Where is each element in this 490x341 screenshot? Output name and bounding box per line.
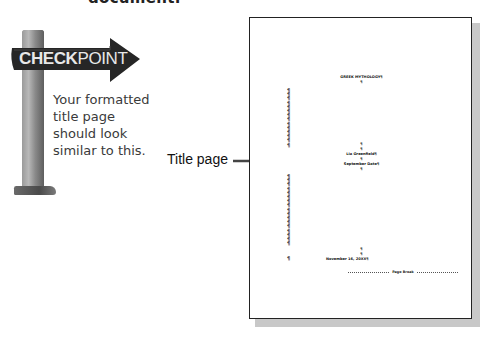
left-paragraph-marks-top: ¶ ¶ ¶ ¶ ¶ ¶ ¶ ¶ ¶ ¶ ¶ ¶ ¶ ¶ xyxy=(287,88,290,147)
checkpoint-line: similar to this. xyxy=(53,142,153,159)
page-break-dots xyxy=(417,272,458,273)
bottom-date: November 16, 20XX¶ xyxy=(250,257,473,262)
page-break-marker: Page Break xyxy=(348,269,458,275)
title-block: GREEK MYTHOLOGY¶ ¶ xyxy=(250,75,473,85)
signpost-pole-top xyxy=(22,30,44,42)
checkpoint-light-word: POINT xyxy=(77,49,127,68)
paragraph-mark: ¶ xyxy=(250,167,473,172)
checkpoint-line: should look xyxy=(53,125,153,142)
page-break-label: Page Break xyxy=(389,270,417,274)
left-paragraph-marks-bottom: ¶ ¶ ¶ ¶ ¶ ¶ ¶ ¶ ¶ ¶ ¶ ¶ ¶ ¶ ¶ ¶ ¶ xyxy=(287,174,290,245)
signpost-base xyxy=(14,186,56,195)
checkpoint-bold-word: CHECK xyxy=(19,49,77,68)
title-page-callout-label: Title page xyxy=(167,151,228,167)
clipped-heading-text: document. xyxy=(88,0,181,7)
checkpoint-description: Your formatted title page should look si… xyxy=(53,91,153,159)
page-break-dots xyxy=(348,272,389,273)
checkpoint-sign-label: CHECKPOINT xyxy=(19,47,127,71)
title-page-document: GREEK MYTHOLOGY¶ ¶ ¶ ¶ ¶ ¶ ¶ ¶ ¶ ¶ ¶ ¶ ¶… xyxy=(249,17,472,319)
bottom-date-block: ¶ ¶ November 16, 20XX¶ xyxy=(250,247,473,262)
paragraph-mark: ¶ xyxy=(287,241,290,245)
checkpoint-line: Your formatted xyxy=(53,91,153,108)
author-date-block: ¶ ¶ Lia Greenfield¶ ¶ September Date¶ ¶ xyxy=(250,142,473,172)
paragraph-mark: ¶ xyxy=(250,80,473,85)
checkpoint-line: title page xyxy=(53,108,153,125)
